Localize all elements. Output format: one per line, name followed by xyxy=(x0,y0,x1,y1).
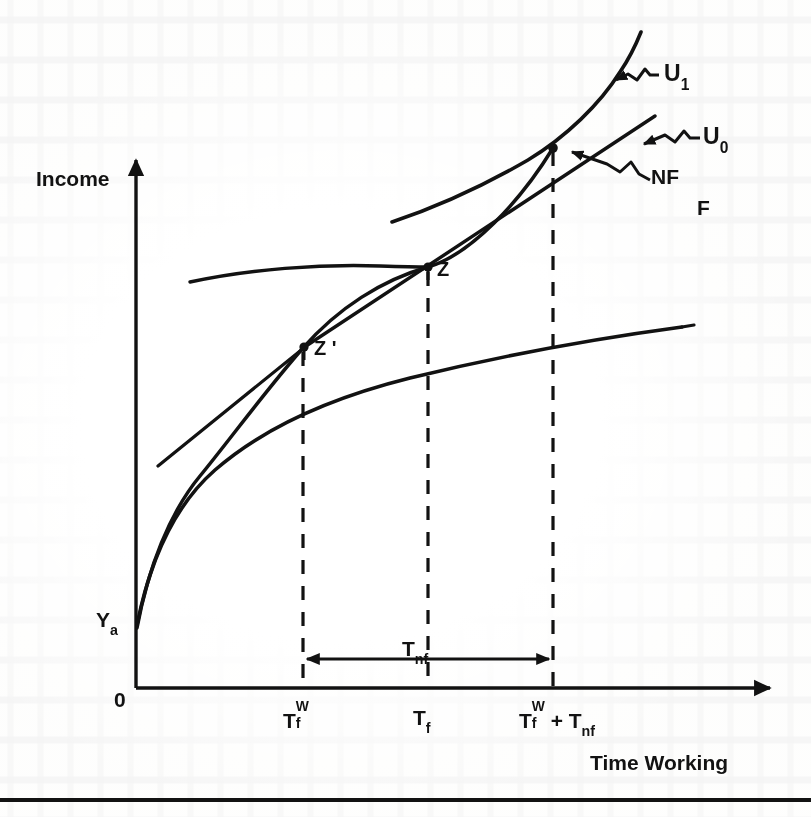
x-tick-sum-base: T xyxy=(519,709,532,732)
point-label-z-prime: Z ' xyxy=(314,338,337,358)
curve-label-u1: U1 xyxy=(664,62,689,89)
y-intercept-base: Y xyxy=(96,608,110,631)
point-marker-upper-tangency xyxy=(548,143,558,153)
curve-label-f: F xyxy=(697,197,710,218)
curve-label-u1-base: U xyxy=(664,60,681,86)
origin-label: 0 xyxy=(114,689,126,710)
x-tick-tf-base: T xyxy=(413,706,426,729)
span-label-tnf: Tnf xyxy=(402,638,428,663)
curve-label-u0-base: U xyxy=(703,123,720,149)
figure-page: Income Time Working Ya 0 U1 U0 NF F Z Z … xyxy=(0,0,811,817)
span-label-tnf-base: T xyxy=(402,637,415,660)
line-nf-nonfarm-income xyxy=(303,116,655,348)
leader-nf xyxy=(572,152,650,180)
x-tick-label-tf: Tf xyxy=(413,707,431,732)
x-tick-label-tfw: TWf xyxy=(283,707,309,731)
x-tick-sum-tail-subscript: nf xyxy=(582,723,595,739)
curve-income-expansion-path xyxy=(137,148,553,628)
x-tick-sum-subscript: f xyxy=(532,716,537,730)
curve-label-u1-subscript: 1 xyxy=(681,76,690,93)
x-tick-tfw-affixes: Wf xyxy=(296,707,309,728)
x-tick-sum-superscript: W xyxy=(532,700,545,714)
span-label-tnf-subscript: nf xyxy=(415,651,428,667)
x-axis-title: Time Working xyxy=(590,752,728,773)
y-intercept-subscript: a xyxy=(110,622,118,638)
curve-label-u0: U0 xyxy=(703,125,728,152)
x-tick-label-tfw-plus-tnf: TWf + Tnf xyxy=(519,707,595,735)
curve-f-farm-production xyxy=(137,327,682,625)
leader-f xyxy=(682,325,694,327)
leader-u0 xyxy=(644,131,700,144)
x-tick-sum-plus: + T xyxy=(545,709,582,732)
y-intercept-label: Ya xyxy=(96,609,118,634)
x-tick-tfw-base: T xyxy=(283,709,296,732)
x-tick-sum-affixes: Wf xyxy=(532,707,545,728)
x-tick-tfw-subscript: f xyxy=(296,716,301,730)
point-label-z: Z xyxy=(437,259,449,279)
curve-label-nf: NF xyxy=(651,166,679,187)
y-axis-title: Income xyxy=(36,168,110,189)
curve-label-u0-subscript: 0 xyxy=(720,139,729,156)
x-tick-tfw-superscript: W xyxy=(296,700,309,714)
curve-income-path-main xyxy=(137,148,553,628)
line-wage-tangent xyxy=(158,347,305,466)
curve-u1-indifference-high xyxy=(392,32,641,222)
x-tick-tf-subscript: f xyxy=(426,720,431,736)
